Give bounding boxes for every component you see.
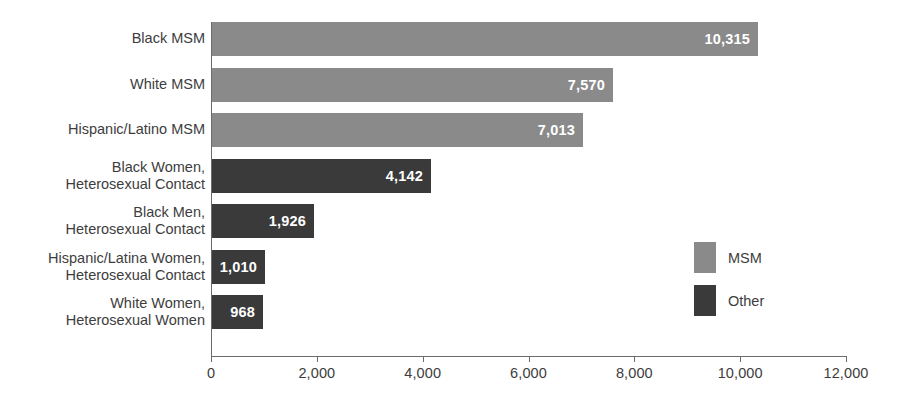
x-axis-tick xyxy=(317,356,318,362)
bar: 968 xyxy=(212,295,263,329)
bar-value-label: 4,142 xyxy=(386,168,423,184)
category-label: Hispanic/Latina Women, Heterosexual Cont… xyxy=(0,250,205,284)
y-axis-line xyxy=(211,22,212,357)
x-axis-tick-label: 12,000 xyxy=(824,365,869,381)
bar-row: Black Men, Heterosexual Contact1,926 xyxy=(0,204,904,238)
x-axis-tick-label: 2,000 xyxy=(298,365,335,381)
category-label: Black Men, Heterosexual Contact xyxy=(0,204,205,238)
bar-value-label: 1,926 xyxy=(269,213,306,229)
x-axis-tick-label: 8,000 xyxy=(616,365,653,381)
bar-value-label: 1,010 xyxy=(220,259,257,275)
x-axis-tick-label: 10,000 xyxy=(718,365,763,381)
bar-row: Hispanic/Latino MSM7,013 xyxy=(0,113,904,147)
legend-label: Other xyxy=(728,293,764,309)
bar-value-label: 7,013 xyxy=(538,122,575,138)
legend-swatch xyxy=(694,285,716,316)
category-label: Hispanic/Latino MSM xyxy=(0,121,205,138)
category-label: White Women, Heterosexual Women xyxy=(0,295,205,329)
bar: 1,010 xyxy=(212,250,265,284)
bar-row: Black Women, Heterosexual Contact4,142 xyxy=(0,159,904,193)
category-label: White MSM xyxy=(0,76,205,93)
bar: 7,013 xyxy=(212,113,583,147)
x-axis-tick-label: 4,000 xyxy=(404,365,441,381)
bar-value-label: 10,315 xyxy=(704,31,750,47)
bar-row: Black MSM10,315 xyxy=(0,22,904,56)
category-label: Black MSM xyxy=(0,30,205,47)
x-axis-tick xyxy=(211,356,212,362)
x-axis-tick xyxy=(529,356,530,362)
bar: 10,315 xyxy=(212,22,758,56)
x-axis-tick-label: 6,000 xyxy=(510,365,547,381)
bar: 7,570 xyxy=(212,68,613,102)
x-axis-tick xyxy=(634,356,635,362)
bar-row: White Women, Heterosexual Women968 xyxy=(0,295,904,329)
bar-row: White MSM7,570 xyxy=(0,68,904,102)
legend-swatch xyxy=(694,242,716,273)
bar-row: Hispanic/Latina Women, Heterosexual Cont… xyxy=(0,250,904,284)
x-axis-tick xyxy=(423,356,424,362)
bar-value-label: 968 xyxy=(230,304,255,320)
x-axis-tick xyxy=(740,356,741,362)
bar: 4,142 xyxy=(212,159,431,193)
bar: 1,926 xyxy=(212,204,314,238)
bar-value-label: 7,570 xyxy=(568,77,605,93)
legend-label: MSM xyxy=(728,250,762,266)
category-label: Black Women, Heterosexual Contact xyxy=(0,159,205,193)
x-axis-tick xyxy=(846,356,847,362)
x-axis-tick-label: 0 xyxy=(207,365,215,381)
bar-chart: Black MSM10,315White MSM7,570Hispanic/La… xyxy=(0,0,904,406)
